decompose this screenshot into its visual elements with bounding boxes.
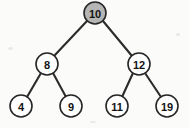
tree-edge — [53, 73, 66, 97]
tree-edge — [145, 73, 161, 97]
binary-search-tree-figure: 10 8 12 4 9 11 — [0, 0, 189, 128]
tree-node-leaf[interactable]: 4 — [10, 95, 32, 117]
tree-edge — [27, 73, 41, 97]
node-label: 19 — [161, 101, 173, 113]
tree-edge — [122, 73, 133, 97]
tree-node[interactable]: 12 — [128, 53, 150, 75]
node-label: 10 — [89, 8, 101, 20]
tree-node[interactable]: 8 — [36, 53, 58, 75]
tree-canvas: 10 8 12 4 9 11 — [0, 0, 189, 128]
tree-node-leaf[interactable]: 19 — [156, 95, 178, 117]
node-label: 4 — [18, 101, 25, 113]
node-label: 12 — [133, 59, 145, 71]
node-label: 8 — [44, 59, 50, 71]
tree-edge — [54, 21, 87, 56]
tree-node-leaf[interactable]: 9 — [60, 95, 82, 117]
tree-node-root[interactable]: 10 — [84, 2, 106, 24]
tree-node-leaf[interactable]: 11 — [106, 95, 128, 117]
node-label: 11 — [111, 101, 123, 113]
tree-edge — [103, 21, 132, 56]
node-label: 9 — [68, 101, 74, 113]
node-group: 10 8 12 4 9 11 — [10, 2, 178, 117]
